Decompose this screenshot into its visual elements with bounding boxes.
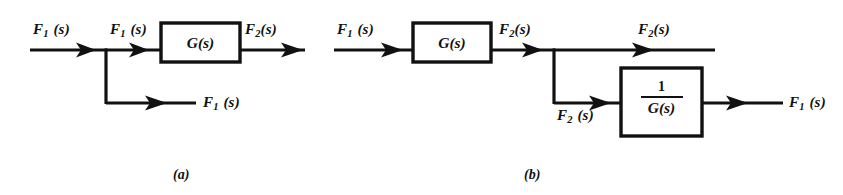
a-g-block-label: G(s) [161, 35, 240, 51]
b-final-output-label: F1 (s) [789, 95, 826, 112]
b-inverse-g-block-fraction: 1 G(s) [640, 80, 683, 116]
b-top-output-label: F2(s) [638, 22, 670, 39]
a-branch-output-label: F1 (s) [203, 95, 240, 112]
caption-b: (b) [524, 167, 540, 183]
caption-a: (a) [173, 167, 189, 183]
fraction-bar [641, 96, 683, 98]
a-output-label: F2(s) [245, 22, 277, 39]
a-after-branch-label: F1 (s) [110, 22, 147, 39]
b-branch-label: F2 (s) [557, 108, 594, 125]
b-g-block-label: G(s) [413, 35, 491, 51]
fraction-denominator: G(s) [648, 100, 676, 116]
fraction-numerator: 1 [658, 80, 665, 95]
block-diagram-figure: F1 (s) F1 (s) G(s) F2(s) F1 (s) (a) F1 (… [0, 0, 843, 195]
b-input-label: F1 (s) [337, 22, 374, 39]
a-input-label: F1 (s) [33, 22, 70, 39]
b-after-block-label: F2(s) [499, 22, 531, 39]
